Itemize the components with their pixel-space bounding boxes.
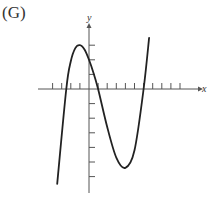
x-axis-label: x — [201, 83, 207, 94]
cubic-curve — [57, 38, 149, 184]
y-axis-label: y — [86, 12, 92, 23]
axes — [38, 23, 203, 193]
cubic-graph: x y — [0, 0, 222, 200]
y-axis-arrow-icon — [87, 23, 92, 28]
